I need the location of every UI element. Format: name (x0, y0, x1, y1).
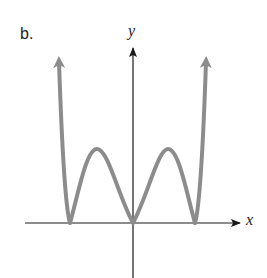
graph (0, 0, 267, 278)
curve-right-arm (195, 62, 206, 223)
curve-left-arm (59, 62, 70, 223)
